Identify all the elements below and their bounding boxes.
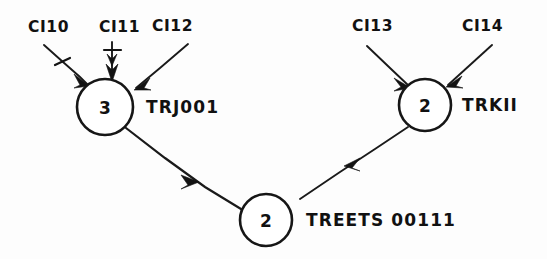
input-label-ci10: CI10 [28, 18, 69, 36]
input-label-ci13: CI13 [352, 17, 393, 35]
diagram-canvas: 3 TRJ001 2 TRKII 2 TREETS 00111 CI10 CI1… [0, 0, 547, 259]
node-bottom[interactable]: 2 TREETS 00111 [240, 194, 456, 246]
input-label-ci12: CI12 [152, 17, 193, 35]
node-left-name: TRJ001 [146, 97, 219, 117]
input-arrow-ci12 [134, 44, 188, 90]
node-left[interactable]: 3 TRJ001 [77, 79, 219, 135]
node-bottom-number: 2 [260, 211, 272, 231]
input-arrow-ci10 [44, 45, 89, 88]
input-arrow-ci13 [367, 46, 411, 91]
node-bottom-name: TREETS 00111 [306, 210, 456, 230]
edge-right-to-bottom [300, 127, 408, 199]
node-diagram: 3 TRJ001 2 TRKII 2 TREETS 00111 CI10 CI1… [0, 0, 547, 259]
input-label-ci11: CI11 [99, 18, 140, 36]
node-left-number: 3 [99, 98, 111, 118]
input-arrow-ci11 [104, 42, 121, 82]
input-label-ci14: CI14 [462, 17, 503, 35]
node-right-number: 2 [419, 96, 431, 116]
edge-left-to-bottom [126, 128, 241, 209]
input-arrow-ci14 [446, 45, 492, 88]
node-right-name: TRKII [462, 95, 518, 115]
